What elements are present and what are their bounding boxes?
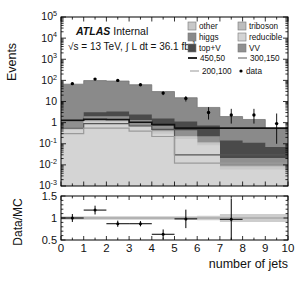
data-point xyxy=(252,113,255,116)
legend-label-triboson: triboson xyxy=(249,22,279,31)
ratio-point xyxy=(116,222,119,225)
legend-label-300-150: 300,150 xyxy=(250,54,280,63)
data-point xyxy=(207,111,210,114)
data-point xyxy=(93,77,96,80)
legend-label-other: other xyxy=(199,22,218,31)
ratio-point xyxy=(162,233,165,236)
x-tick-label: 4 xyxy=(149,242,156,254)
data-point xyxy=(71,82,74,85)
figure-root: 10510410310210110-110-210-31.510.5012345… xyxy=(0,0,305,293)
y-axis-title: Events xyxy=(5,43,19,81)
x-tick-label: 8 xyxy=(239,242,245,254)
data-point xyxy=(184,97,187,100)
luminosity-label: √s = 13 TeV,∫L dt = 36.1 fb-1 xyxy=(68,40,196,52)
y-tick-label: 1 xyxy=(51,116,57,128)
x-axis-title: number of jets xyxy=(209,257,288,271)
legend-swatch-VV xyxy=(238,44,246,52)
data-point xyxy=(275,122,278,125)
x-tick-label: 3 xyxy=(126,242,132,254)
x-tick-label: 1 xyxy=(80,242,86,254)
x-tick-label: 0 xyxy=(58,242,64,254)
legend-label-higgs: higgs xyxy=(199,33,219,42)
ratio-y-axis-title: Data/MC xyxy=(11,198,25,246)
legend-label-data: data xyxy=(246,67,262,76)
y-tick-label: 10 xyxy=(45,95,57,107)
legend-swatch-higgs xyxy=(188,33,196,41)
legend-swatch-triboson xyxy=(238,22,246,30)
x-tick-label: 5 xyxy=(171,242,177,254)
legend-label-reducible: reducible xyxy=(249,33,283,42)
ratio-point xyxy=(230,218,233,221)
data-point xyxy=(230,113,233,116)
data-point xyxy=(139,83,142,86)
physics-plot-svg: 10510410310210110-110-210-31.510.5012345… xyxy=(0,0,305,293)
x-tick-label: 7 xyxy=(217,242,223,254)
data-point xyxy=(161,91,164,94)
legend-label-200-100: 200,100 xyxy=(202,67,232,76)
ratio-y-tick-label: 1 xyxy=(51,212,57,224)
ratio-point xyxy=(184,217,187,220)
x-tick-label: 2 xyxy=(103,242,109,254)
legend-swatch-top-V xyxy=(188,44,196,52)
legend-swatch-other xyxy=(188,22,196,30)
ratio-y-tick-label: 1.5 xyxy=(42,190,57,202)
legend-marker-data xyxy=(239,69,242,72)
legend-swatch-reducible xyxy=(238,33,246,41)
x-tick-label: 10 xyxy=(282,242,295,254)
x-tick-label: 6 xyxy=(194,242,200,254)
x-tick-label: 9 xyxy=(262,242,268,254)
legend-label-top-V: top+V xyxy=(199,44,221,53)
legend-label-450-50: 450,50 xyxy=(200,54,225,63)
ratio-point xyxy=(71,217,74,220)
data-point xyxy=(116,79,119,82)
ratio-point xyxy=(94,209,97,212)
ratio-point xyxy=(139,222,142,225)
legend-label-VV: VV xyxy=(249,44,260,53)
ratio-y-tick-label: 0.5 xyxy=(42,234,57,246)
